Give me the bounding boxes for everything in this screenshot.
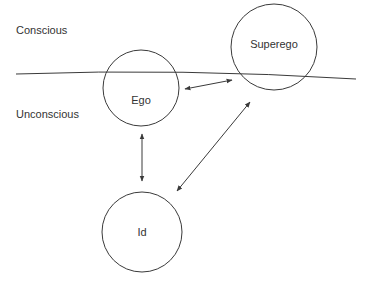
conscious-label: Conscious [16, 24, 68, 36]
ego-label: Ego [131, 94, 151, 106]
unconscious-label: Unconscious [16, 108, 79, 120]
id-node: Id [102, 192, 182, 272]
superego-label: Superego [250, 38, 298, 50]
superego-id-arrow [177, 102, 250, 191]
superego-node: Superego [231, 4, 317, 90]
ego-circle [103, 50, 179, 126]
ego-node: Ego [103, 50, 179, 126]
id-label: Id [137, 226, 146, 238]
ego-superego-arrow [185, 80, 232, 89]
consciousness-boundary-line [16, 72, 356, 79]
diagram-canvas: Conscious Unconscious Ego Superego Id [0, 0, 367, 285]
